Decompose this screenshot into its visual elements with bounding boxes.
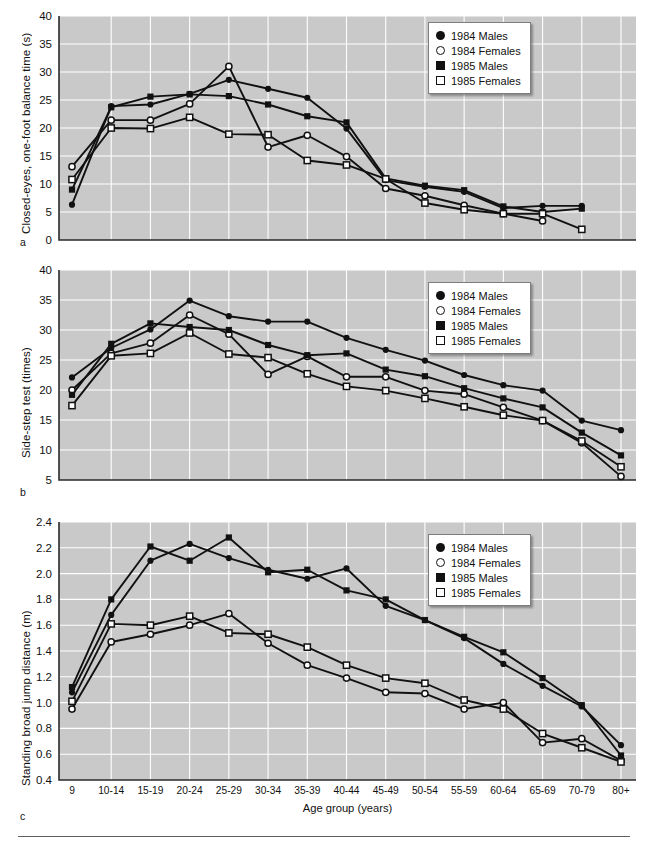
data-point (147, 326, 153, 332)
data-point (304, 662, 310, 668)
svg-text:30: 30 (39, 324, 52, 336)
data-point (304, 113, 310, 119)
legend-item-1985-males: 1985 Males (436, 58, 521, 73)
data-point (422, 680, 428, 686)
data-point (69, 698, 75, 704)
data-point (539, 739, 545, 745)
data-point (461, 706, 467, 712)
data-point (343, 662, 349, 668)
data-point (343, 374, 349, 380)
filled-square-icon (436, 321, 445, 330)
svg-text:5: 5 (46, 206, 52, 218)
panel-a: Closed-eyes, one-foot balance time (s) a… (0, 0, 647, 258)
x-tick-label: 40-44 (333, 785, 359, 796)
data-point (304, 132, 310, 138)
data-point (187, 101, 193, 107)
panel-b-plot: 510152025303540 (0, 258, 647, 510)
data-point (500, 382, 506, 388)
data-point (343, 587, 349, 593)
svg-text:0.4: 0.4 (36, 774, 53, 786)
x-tick-label: 60-64 (490, 785, 516, 796)
data-point (539, 418, 545, 424)
panel-c-plot: 0.40.60.81.01.21.41.61.82.02.22.4910-141… (0, 510, 647, 845)
svg-text:25: 25 (39, 354, 52, 366)
data-point (383, 675, 389, 681)
data-point (226, 555, 232, 561)
x-tick-label: 35-39 (294, 785, 320, 796)
data-point (461, 634, 467, 640)
open-square-icon (436, 76, 445, 85)
data-point (304, 95, 310, 101)
data-point (187, 622, 193, 628)
data-point (461, 697, 467, 703)
data-point (226, 534, 232, 540)
data-point (383, 603, 389, 609)
data-point (304, 157, 310, 163)
data-point (187, 91, 193, 97)
data-point (69, 403, 75, 409)
data-point (265, 101, 271, 107)
panel-b: Side-step test (times) b 510152025303540… (0, 258, 647, 510)
svg-text:1.4: 1.4 (36, 645, 53, 657)
data-point (69, 202, 75, 208)
x-tick-label: 20-24 (177, 785, 203, 796)
data-point (461, 404, 467, 410)
data-point (304, 352, 310, 358)
legend-label: 1984 Males (451, 290, 508, 302)
data-point (500, 412, 506, 418)
data-point (226, 327, 232, 333)
x-tick-label: 9 (69, 785, 75, 796)
legend-label: 1984 Males (451, 30, 508, 42)
data-point (500, 661, 506, 667)
open-square-icon (436, 588, 445, 597)
data-point (539, 388, 545, 394)
data-point (304, 644, 310, 650)
data-point (343, 162, 349, 168)
data-point (108, 639, 114, 645)
legend-label: 1985 Males (451, 60, 508, 72)
data-point (69, 684, 75, 690)
data-point (304, 371, 310, 377)
svg-text:10: 10 (39, 444, 52, 456)
svg-text:0.6: 0.6 (36, 748, 52, 760)
data-point (343, 119, 349, 125)
x-tick-label: 70-79 (569, 785, 595, 796)
panel-a-svg: 0510152025303540 (0, 0, 647, 258)
x-tick-label: 55-59 (451, 785, 477, 796)
data-point (618, 742, 624, 748)
data-point (343, 675, 349, 681)
data-point (618, 427, 624, 433)
legend-label: 1985 Females (451, 75, 521, 87)
data-point (422, 617, 428, 623)
data-point (147, 125, 153, 131)
data-point (147, 117, 153, 123)
panel-c-svg: 0.40.60.81.01.21.41.61.82.02.22.4910-141… (0, 510, 647, 845)
data-point (108, 341, 114, 347)
data-point (579, 702, 585, 708)
data-point (108, 612, 114, 618)
data-point (147, 101, 153, 107)
data-point (383, 367, 389, 373)
data-point (108, 621, 114, 627)
data-point (422, 358, 428, 364)
data-point (422, 193, 428, 199)
panel-b-legend: 1984 Males 1984 Females 1985 Males 1985 … (428, 282, 531, 354)
data-point (226, 630, 232, 636)
legend-label: 1985 Females (451, 335, 521, 347)
x-tick-label: 30-34 (255, 785, 281, 796)
data-point (69, 176, 75, 182)
data-point (108, 596, 114, 602)
legend-item-1985-males: 1985 Males (436, 570, 521, 585)
data-point (147, 622, 153, 628)
data-point (265, 319, 271, 325)
data-point (147, 94, 153, 100)
legend-label: 1984 Females (451, 305, 521, 317)
data-point (226, 610, 232, 616)
data-point (265, 640, 271, 646)
data-point (618, 473, 624, 479)
x-axis-title: Age group (years) (303, 802, 393, 814)
data-point (69, 374, 75, 380)
data-point (265, 132, 271, 138)
data-point (461, 385, 467, 391)
svg-text:2.4: 2.4 (36, 516, 53, 528)
